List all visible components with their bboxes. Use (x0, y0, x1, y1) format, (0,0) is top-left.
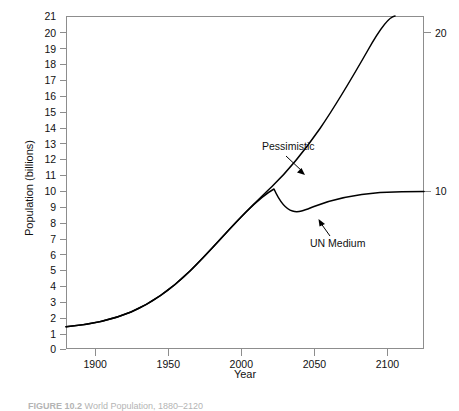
series-label-pessimistic: Pessimistic (262, 141, 315, 152)
x-axis-title: Year (66, 368, 424, 380)
y-tick-label-right-20: 20 (435, 28, 459, 39)
figure-world-population: 21 20 19 18 17 16 15 14 13 12 11 10 9 8 … (0, 0, 459, 411)
y-tick-label-17: 17 (30, 75, 56, 86)
y-tick-label-21: 21 (30, 11, 56, 22)
y-tick-label-16: 16 (30, 91, 56, 102)
y-axis-title: Population (billions) (23, 108, 35, 268)
y-tick-label-20: 20 (30, 28, 56, 39)
y-tick-label-18: 18 (30, 59, 56, 70)
figure-caption-text: World Population, 1880–2120 (85, 401, 203, 411)
y-tick-label-0: 0 (30, 344, 56, 355)
x-axis-ticks (95, 349, 387, 356)
y-tick-label-3: 3 (30, 297, 56, 308)
series-label-un-medium: UN Medium (310, 238, 365, 249)
y-tick-label-2: 2 (30, 313, 56, 324)
plot-area (66, 16, 424, 349)
figure-caption-label: FIGURE 10.2 (28, 401, 82, 411)
y-tick-label-4: 4 (30, 281, 56, 292)
figure-caption: FIGURE 10.2 World Population, 1880–2120 (28, 401, 448, 411)
y-tick-label-1: 1 (30, 329, 56, 340)
y-tick-label-right-10: 10 (435, 186, 459, 197)
y-tick-label-19: 19 (30, 44, 56, 55)
y-axis-ticks-right (424, 33, 431, 192)
